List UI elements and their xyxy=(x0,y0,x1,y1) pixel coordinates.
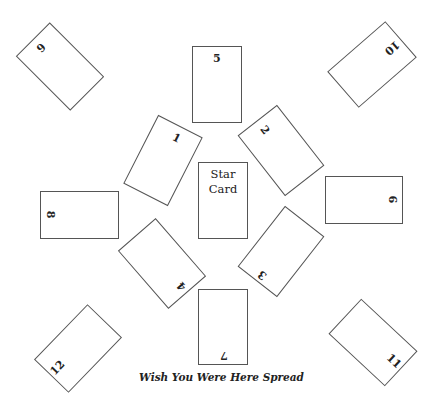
star-card-label-line1: Star xyxy=(199,167,247,182)
card-9-number: 9 xyxy=(388,196,399,204)
card-5-number: 5 xyxy=(213,53,221,64)
card-6-number: 6 xyxy=(34,41,47,54)
card-1: 1 xyxy=(123,115,203,206)
card-11-number: 11 xyxy=(385,352,404,370)
spread-diagram: 6 5 10 1 2 Star Card 8 9 4 3 7 xyxy=(0,0,443,415)
card-8-number: 8 xyxy=(45,211,56,219)
card-7: 7 xyxy=(198,289,248,365)
card-10-number: 10 xyxy=(383,39,402,57)
card-10: 10 xyxy=(327,21,417,108)
star-card-label: Star Card xyxy=(199,167,247,197)
card-7-number: 7 xyxy=(220,350,228,361)
card-9: 9 xyxy=(325,176,403,224)
card-4: 4 xyxy=(118,218,206,309)
card-3: 3 xyxy=(238,206,325,297)
card-2: 2 xyxy=(238,105,325,196)
card-4-number: 4 xyxy=(175,280,188,293)
card-6: 6 xyxy=(16,22,104,110)
spread-title: Wish You Were Here Spread xyxy=(0,371,443,383)
card-8: 8 xyxy=(40,191,119,239)
card-5: 5 xyxy=(192,46,242,123)
star-card-label-line2: Card xyxy=(199,182,247,197)
card-2-number: 2 xyxy=(258,124,271,137)
card-3-number: 3 xyxy=(256,268,269,281)
card-1-number: 1 xyxy=(171,132,183,145)
star-card: Star Card xyxy=(198,162,248,239)
